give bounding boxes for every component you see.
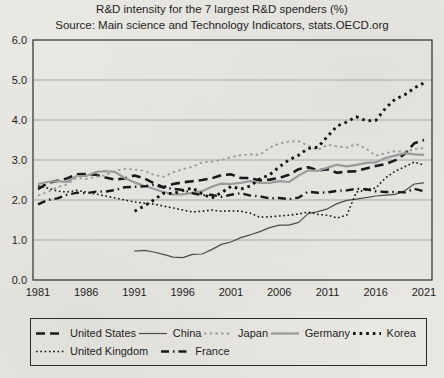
x-tick-label: 1981 bbox=[26, 286, 50, 298]
y-tick-label: 1.0 bbox=[12, 234, 27, 246]
x-tick-label: 2021 bbox=[412, 286, 436, 298]
scanned-page: R&D intensity for the 7 largest R&D spen… bbox=[0, 0, 444, 378]
x-tick-label: 1986 bbox=[74, 286, 98, 298]
y-tick-label: 0.0 bbox=[12, 274, 27, 286]
x-tick-label: 1991 bbox=[122, 286, 146, 298]
y-tick-label: 6.0 bbox=[12, 34, 27, 46]
legend-swatch-china-line-icon bbox=[139, 330, 167, 337]
legend-label: Japan bbox=[238, 327, 268, 339]
x-tick-label: 2001 bbox=[219, 286, 243, 298]
legend-label: France bbox=[195, 345, 229, 357]
legend-swatch-united-states-line-icon bbox=[36, 330, 64, 337]
plot-area: 0.01.02.03.04.05.06.01981198619911996200… bbox=[0, 0, 444, 302]
legend-row: United StatesChinaJapanGermanyKorea bbox=[36, 327, 416, 339]
legend-item-united-states: United States bbox=[36, 327, 136, 339]
legend-item-germany: Germany bbox=[271, 327, 350, 339]
legend-swatch-japan-line-icon bbox=[204, 330, 232, 337]
legend-swatch-france-line-icon bbox=[161, 348, 189, 355]
x-tick-label: 2016 bbox=[364, 286, 388, 298]
legend-label: Germany bbox=[305, 327, 350, 339]
legend-swatch-united-kingdom-line-icon bbox=[36, 348, 64, 355]
y-tick-label: 3.0 bbox=[12, 154, 27, 166]
legend-item-united-kingdom: United Kingdom bbox=[36, 345, 148, 357]
legend-item-japan: Japan bbox=[204, 327, 268, 339]
legend-box: United StatesChinaJapanGermanyKoreaUnite… bbox=[30, 318, 427, 366]
legend-label: China bbox=[173, 327, 202, 339]
y-tick-label: 5.0 bbox=[12, 74, 27, 86]
y-tick-label: 2.0 bbox=[12, 194, 27, 206]
x-tick-label: 1996 bbox=[171, 286, 195, 298]
legend-item-france: France bbox=[161, 345, 229, 357]
y-tick-label: 4.0 bbox=[12, 114, 27, 126]
legend-label: Korea bbox=[387, 327, 416, 339]
legend-swatch-germany-line-icon bbox=[271, 330, 299, 337]
legend-label: United Kingdom bbox=[70, 345, 148, 357]
legend-row: United KingdomFrance bbox=[36, 345, 416, 357]
legend-item-china: China bbox=[139, 327, 202, 339]
x-tick-label: 2011 bbox=[316, 286, 340, 298]
series-line-united-states bbox=[38, 140, 424, 189]
x-tick-label: 2006 bbox=[267, 286, 291, 298]
legend-item-korea: Korea bbox=[353, 327, 416, 339]
legend-swatch-korea-line-icon bbox=[353, 330, 381, 337]
legend-label: United States bbox=[70, 327, 136, 339]
